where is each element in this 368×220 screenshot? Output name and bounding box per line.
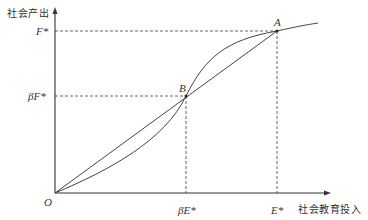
s-curve <box>55 23 318 193</box>
x-axis-label: 社会教育投入 <box>298 205 361 215</box>
point-b-label: B <box>179 83 186 94</box>
point-a-label: A <box>274 17 281 28</box>
diagram: 社会产出 社会教育投入 O F* βF* βE* E* A B <box>0 0 368 220</box>
y-axis-arrow-icon <box>53 7 58 14</box>
diagram-canvas <box>0 0 368 220</box>
line-oa <box>55 31 277 193</box>
axes <box>55 12 326 193</box>
origin-label: O <box>44 197 52 208</box>
point-a <box>276 30 279 33</box>
x-tick-e-star: E* <box>271 205 283 216</box>
x-axis-arrow-icon <box>324 191 331 196</box>
y-tick-beta-f-star: βF* <box>28 91 46 102</box>
y-tick-f-star: F* <box>36 26 48 37</box>
point-b <box>185 95 188 98</box>
x-tick-beta-e-star: βE* <box>178 205 196 216</box>
y-axis-label: 社会产出 <box>7 9 49 19</box>
